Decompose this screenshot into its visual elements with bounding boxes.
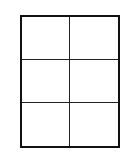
grid-2x3 xyxy=(20,15,120,148)
grid-cell-r2-c2 xyxy=(70,60,118,103)
grid-cell-r3-c2 xyxy=(70,103,118,146)
grid-cell-r1-c2 xyxy=(70,17,118,60)
grid-cell-r2-c1 xyxy=(22,60,70,103)
diagram-canvas xyxy=(0,0,134,163)
grid-cell-r3-c1 xyxy=(22,103,70,146)
grid-cell-r1-c1 xyxy=(22,17,70,60)
